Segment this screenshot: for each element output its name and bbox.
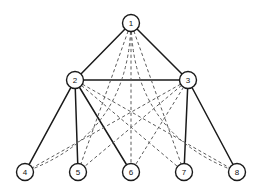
- graph-node-2[interactable]: 2: [67, 72, 84, 89]
- edge-1-3: [137, 29, 182, 74]
- node-label-2: 2: [73, 76, 78, 85]
- graph-node-3[interactable]: 3: [180, 72, 197, 89]
- edge-2-6: [79, 87, 126, 164]
- edge-2-5: [75, 88, 77, 163]
- edge-2-7: [81, 85, 177, 166]
- graph-node-5[interactable]: 5: [70, 164, 87, 181]
- edge-3-8: [192, 88, 233, 165]
- edge-3-5: [85, 85, 182, 166]
- edge-3-4: [32, 84, 180, 168]
- node-label-7: 7: [182, 168, 187, 177]
- graph-node-8[interactable]: 8: [229, 164, 246, 181]
- edge-3-7: [184, 88, 187, 163]
- node-label-6: 6: [129, 168, 134, 177]
- node-label-4: 4: [23, 168, 28, 177]
- node-label-8: 8: [235, 168, 240, 177]
- node-label-5: 5: [76, 168, 81, 177]
- edge-1-2: [81, 29, 125, 74]
- edges-layer: [29, 29, 233, 169]
- graph-node-1[interactable]: 1: [123, 15, 140, 32]
- edge-2-8: [82, 84, 229, 168]
- node-label-1: 1: [129, 19, 134, 28]
- graph-canvas: 12345678: [0, 0, 263, 195]
- graph-node-4[interactable]: 4: [17, 164, 34, 181]
- graph-diagram: 12345678: [0, 0, 263, 195]
- graph-node-6[interactable]: 6: [123, 164, 140, 181]
- edge-2-4: [29, 87, 71, 164]
- edge-3-6: [135, 87, 183, 165]
- edge-1-7: [134, 31, 181, 164]
- graph-node-7[interactable]: 7: [176, 164, 193, 181]
- node-label-3: 3: [186, 76, 191, 85]
